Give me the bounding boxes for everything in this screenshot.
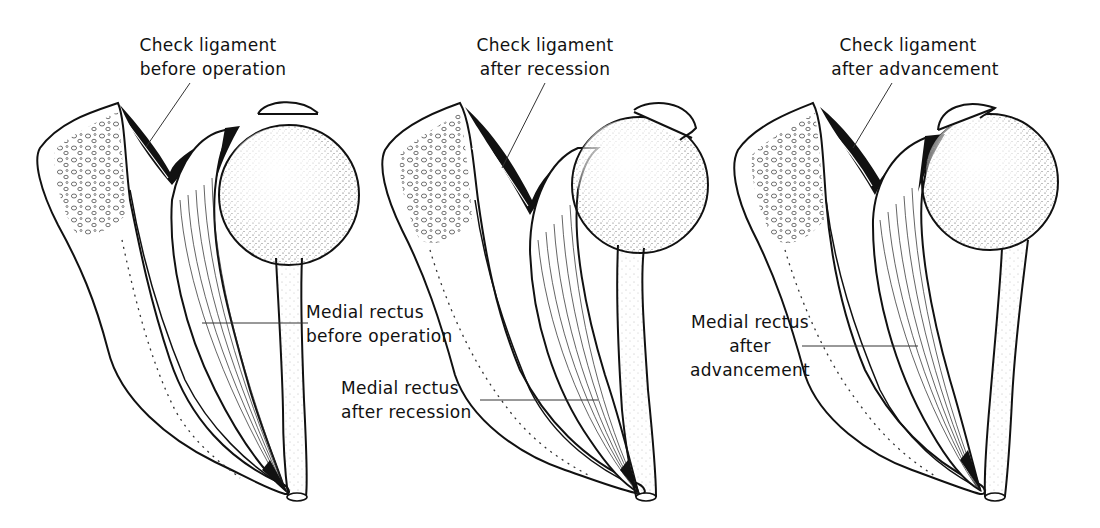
label-line: after [680, 334, 820, 358]
label-line: Check ligament [465, 33, 625, 57]
label-medial-rectus-before: Medial rectus before operation [306, 300, 453, 348]
label-line: before operation [118, 57, 298, 81]
label-line: before operation [306, 324, 453, 348]
optic-nerve [985, 240, 1028, 496]
label-medial-rectus-advancement: Medial rectus after advancement [680, 310, 820, 382]
label-line: Medial rectus [306, 300, 453, 324]
label-line: after recession [341, 400, 472, 424]
panel-before-operation [37, 83, 359, 501]
label-line: Check ligament [118, 33, 298, 57]
optic-nerve [276, 258, 307, 496]
panel-after-recession [382, 83, 708, 501]
label-line: Check ligament [808, 33, 1008, 57]
label-line: Medial rectus [341, 376, 472, 400]
label-line: after recession [465, 57, 625, 81]
label-medial-rectus-recession: Medial rectus after recession [341, 376, 472, 424]
label-check-ligament-before: Check ligament before operation [118, 33, 298, 81]
panel-after-advancement [734, 83, 1058, 501]
leader-check-ligament [853, 83, 892, 148]
cornea [258, 102, 318, 114]
label-line: after advancement [808, 57, 1008, 81]
label-line: advancement [680, 358, 820, 382]
label-line: Medial rectus [680, 310, 820, 334]
label-check-ligament-advancement: Check ligament after advancement [808, 33, 1008, 81]
leader-check-ligament [502, 83, 545, 168]
leader-check-ligament [146, 83, 190, 147]
figure-stage: Check ligament before operation Medial r… [0, 0, 1100, 528]
label-check-ligament-recession: Check ligament after recession [465, 33, 625, 81]
